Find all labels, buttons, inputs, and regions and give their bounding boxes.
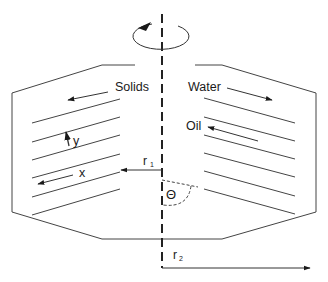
- right-plate-stack: [204, 98, 295, 214]
- plate: [32, 99, 120, 123]
- centrifuge-diagram: Solids Water Oil y x Θ r 1 r 2: [0, 0, 328, 282]
- solids-label: Solids: [115, 80, 149, 94]
- svg-text:1: 1: [150, 161, 154, 168]
- r2-label: r 2: [173, 248, 183, 262]
- rotation-arrow-icon: [133, 22, 189, 49]
- left-plate-stack: [32, 99, 120, 215]
- plate: [204, 153, 295, 177]
- oil-label: Oil: [186, 119, 201, 133]
- plate: [204, 117, 295, 141]
- water-flow-arrow: [227, 88, 272, 100]
- svg-text:2: 2: [179, 255, 183, 262]
- theta-label: Θ: [166, 187, 176, 202]
- plate: [204, 98, 295, 123]
- x-direction-arrow: [38, 175, 73, 184]
- x-label: x: [79, 166, 86, 180]
- r1-label: r 1: [143, 154, 154, 168]
- solids-flow-arrow: [68, 92, 108, 100]
- svg-text:r: r: [143, 154, 147, 168]
- water-label: Water: [188, 80, 221, 94]
- y-direction-arrow: [66, 132, 69, 146]
- svg-text:r: r: [173, 248, 177, 262]
- y-label: y: [73, 134, 80, 148]
- plate: [32, 154, 120, 178]
